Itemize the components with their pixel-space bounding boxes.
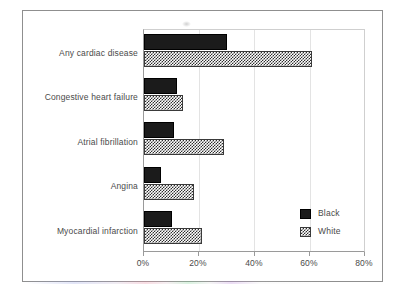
bar-white-atrial-fibrillation <box>144 139 224 155</box>
y-axis-label-any-cardiac-disease: Any cardiac disease <box>59 48 138 58</box>
y-axis-label-angina: Angina <box>111 181 138 191</box>
bar-black-congestive-heart-failure <box>144 78 177 94</box>
bar-white-myocardial-infarction <box>144 228 202 244</box>
bar-white-congestive-heart-failure <box>144 95 183 111</box>
x-tick-label-40: 40% <box>234 258 274 268</box>
checkered-white-swatch-icon <box>300 227 311 237</box>
bar-white-any-cardiac-disease <box>144 51 312 67</box>
chart-figure: Any cardiac disease Congestive heart fai… <box>0 0 405 303</box>
x-tick-label-20: 20% <box>178 258 218 268</box>
bar-white-angina <box>144 184 194 200</box>
chart-legend: Black White <box>300 206 362 242</box>
x-tick-mark-0 <box>143 252 144 256</box>
bar-black-atrial-fibrillation <box>144 122 174 138</box>
solid-black-swatch-icon <box>300 209 311 219</box>
legend-label-white: White <box>318 226 341 236</box>
x-tick-label-0: 0% <box>123 258 163 268</box>
bar-black-angina <box>144 167 161 183</box>
y-axis-label-atrial-fibrillation: Atrial fibrillation <box>78 137 138 147</box>
x-tick-mark-20 <box>198 252 199 256</box>
scan-color-fringe <box>24 281 381 284</box>
x-tick-label-60: 60% <box>289 258 329 268</box>
x-tick-mark-60 <box>309 252 310 256</box>
y-axis-label-myocardial-infarction: Myocardial infarction <box>57 226 138 236</box>
legend-item-white: White <box>300 224 362 242</box>
scan-speckle-artifact <box>182 21 191 27</box>
y-axis-label-congestive-heart-failure: Congestive heart failure <box>45 92 138 102</box>
x-tick-label-80: 80% <box>344 258 384 268</box>
legend-item-black: Black <box>300 206 362 224</box>
bar-black-myocardial-infarction <box>144 211 172 227</box>
x-tick-mark-80 <box>364 252 365 256</box>
x-tick-mark-40 <box>254 252 255 256</box>
legend-label-black: Black <box>318 208 340 218</box>
bar-black-any-cardiac-disease <box>144 34 227 50</box>
